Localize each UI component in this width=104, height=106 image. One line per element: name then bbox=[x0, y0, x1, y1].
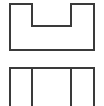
orthographic-views-svg bbox=[0, 0, 104, 106]
canvas-background bbox=[0, 0, 104, 106]
technical-drawing-canvas bbox=[0, 0, 104, 106]
